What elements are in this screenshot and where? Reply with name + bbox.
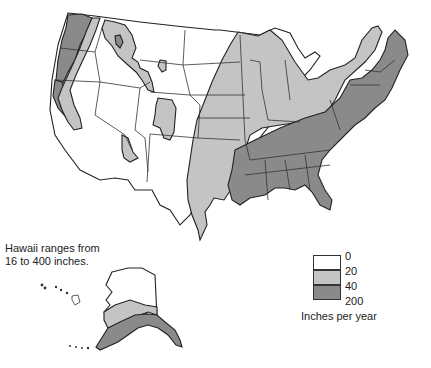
legend-swatch-40-200 [313, 285, 341, 300]
hawaii-note-line-2: 16 to 400 inches. [5, 255, 125, 268]
hawaii [41, 284, 80, 305]
legend-tick-0: 0 [345, 250, 351, 262]
legend-tick-20: 20 [345, 265, 357, 277]
hawaii-note: Hawaii ranges from 16 to 400 inches. [5, 242, 125, 268]
legend-swatch-20-40 [313, 270, 341, 285]
legend-title: Inches per year [301, 310, 377, 322]
hawaii-note-line-1: Hawaii ranges from [5, 242, 125, 255]
legend-tick-40: 40 [345, 280, 357, 292]
legend-swatch-0-20 [313, 255, 341, 270]
alaska [69, 268, 182, 350]
legend-tick-200: 200 [345, 295, 363, 307]
